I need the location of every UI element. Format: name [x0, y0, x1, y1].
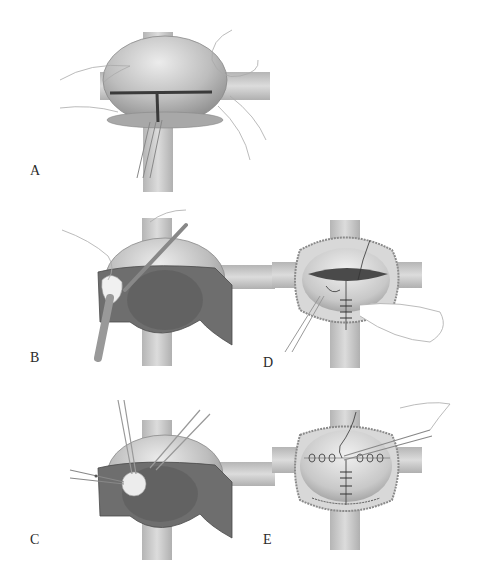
panel-label-e: E — [263, 532, 272, 548]
panel-label-b: B — [30, 350, 39, 366]
panel-label-a: A — [30, 163, 40, 179]
panel-b — [62, 210, 275, 366]
panel-label-c: C — [30, 532, 39, 548]
panel-d — [272, 220, 443, 368]
figure-canvas — [0, 0, 481, 567]
panel-e — [272, 403, 450, 550]
panel-c — [70, 400, 275, 560]
panel-label-d: D — [263, 355, 273, 371]
panel-a — [60, 30, 270, 192]
